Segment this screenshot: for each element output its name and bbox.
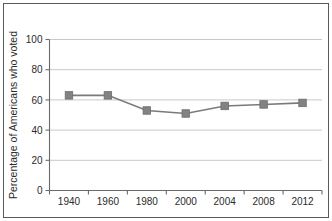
x-tick-label: 2004 xyxy=(214,196,237,207)
y-tick-label: 0 xyxy=(37,185,43,196)
y-tick-label: 20 xyxy=(31,155,43,166)
y-tick-label: 40 xyxy=(31,125,43,136)
data-point-marker xyxy=(182,110,190,118)
y-tick-label: 80 xyxy=(31,64,43,75)
line-chart: 020406080100 194019601980200020042008201… xyxy=(0,0,332,221)
data-point-marker xyxy=(104,92,112,100)
y-tick-labels: 020406080100 xyxy=(26,34,43,196)
y-axis xyxy=(46,40,50,191)
x-tick-label: 1940 xyxy=(58,196,81,207)
data-point-marker xyxy=(221,102,229,110)
x-tick-label: 1980 xyxy=(136,196,159,207)
x-tick-label: 2008 xyxy=(252,196,275,207)
data-point-marker xyxy=(65,92,73,100)
data-point-marker xyxy=(260,101,268,109)
y-axis-title: Percentage of Americans who voted xyxy=(7,31,19,199)
y-axis-title-text: Percentage of Americans who voted xyxy=(7,31,19,199)
gridlines xyxy=(50,40,323,161)
x-tick-labels: 1940196019802000200420082012 xyxy=(58,196,314,207)
data-point-marker xyxy=(299,99,307,107)
x-tick-label: 2000 xyxy=(175,196,198,207)
y-tick-label: 60 xyxy=(31,95,43,106)
x-tick-label: 1960 xyxy=(97,196,120,207)
chart-figure: 020406080100 194019601980200020042008201… xyxy=(0,0,332,221)
y-tick-label: 100 xyxy=(26,34,43,45)
x-tick-label: 2012 xyxy=(291,196,314,207)
data-point-marker xyxy=(143,107,151,115)
x-axis xyxy=(50,191,323,195)
